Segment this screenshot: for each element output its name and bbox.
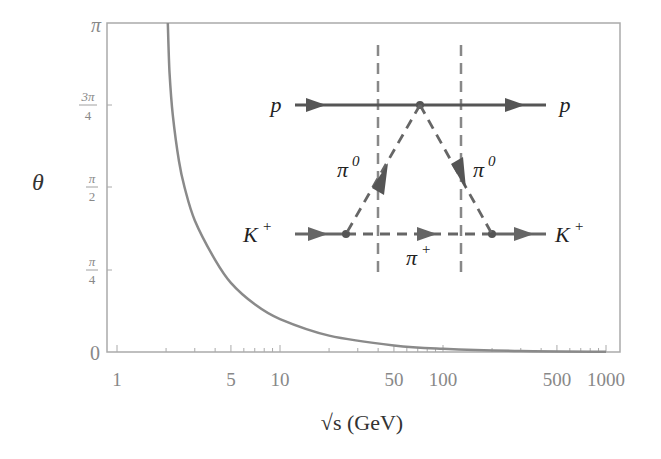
label-k-in: K +: [242, 218, 272, 247]
pi0-left-line: [346, 105, 420, 234]
proton-out-arrow-icon: [505, 98, 525, 112]
x-axis-title: √s (GeV): [321, 410, 403, 435]
svg-text:π: π: [89, 254, 96, 269]
x-tick-500: 500: [543, 369, 572, 390]
x-tick-5: 5: [226, 369, 236, 390]
y-tick-3pi4: 3π 4: [79, 89, 97, 123]
kaon-in-arrow-icon: [308, 227, 328, 241]
y-tick-0: 0: [90, 342, 100, 364]
svg-text:+: +: [421, 241, 431, 257]
svg-text:+: +: [574, 218, 584, 234]
y-tick-labels: π 3π 4 π 2 π 4 0: [79, 14, 102, 364]
svg-text:4: 4: [85, 108, 92, 123]
svg-text:π: π: [473, 157, 485, 182]
svg-text:0: 0: [352, 153, 360, 169]
svg-text:π: π: [89, 171, 96, 186]
label-pi-plus: π +: [406, 241, 431, 270]
svg-text:2: 2: [89, 189, 96, 204]
label-p-out: p: [558, 92, 571, 117]
feynman-diagram: p p K + K + π 0 π 0 π +: [242, 45, 584, 276]
label-k-out: K +: [554, 218, 584, 247]
x-tick-10: 10: [271, 369, 290, 390]
svg-text:K: K: [242, 222, 259, 247]
svg-text:0: 0: [488, 153, 496, 169]
pi0-left-arrow-icon: [372, 163, 388, 195]
theta-curve: [168, 23, 606, 352]
y-axis-title: θ: [32, 169, 44, 195]
svg-text:π: π: [337, 157, 349, 182]
svg-text:π: π: [406, 245, 418, 270]
y-tick-pi4: π 4: [86, 254, 98, 287]
x-tick-50: 50: [385, 369, 404, 390]
chart: π 3π 4 π 2 π 4 0 1 5 10 50 100 500 1000 …: [0, 0, 661, 459]
x-tick-labels: 1 5 10 50 100 500 1000: [112, 369, 625, 390]
svg-text:3π: 3π: [80, 89, 95, 104]
label-pi0-left: π 0: [337, 153, 360, 182]
pi-plus-arrow-icon: [417, 227, 437, 241]
label-pi0-right: π 0: [473, 153, 496, 182]
pi0-right-arrow-icon: [451, 157, 466, 189]
y-tick-pi2: π 2: [86, 171, 98, 204]
x-tick-1000: 1000: [587, 369, 625, 390]
x-tick-1: 1: [112, 369, 122, 390]
svg-text:+: +: [262, 218, 272, 234]
kaon-out-arrow-icon: [514, 227, 534, 241]
svg-text:K: K: [554, 222, 571, 247]
label-p-in: p: [269, 92, 282, 117]
x-tick-100: 100: [429, 369, 458, 390]
svg-text:4: 4: [89, 272, 96, 287]
proton-in-arrow-icon: [306, 98, 326, 112]
y-tick-pi: π: [91, 14, 102, 36]
